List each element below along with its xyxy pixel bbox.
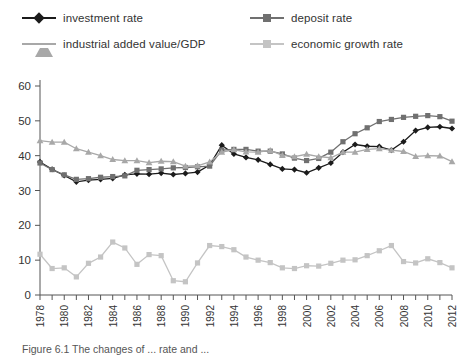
- data-point-marker: [86, 261, 91, 266]
- data-point-marker: [98, 175, 103, 180]
- data-point-marker: [110, 239, 115, 244]
- data-point-marker: [365, 125, 370, 130]
- data-point-marker: [401, 115, 406, 120]
- data-point-marker: [413, 114, 418, 119]
- data-point-marker: [219, 244, 224, 249]
- x-axis-tick-label: 1992: [205, 305, 216, 328]
- data-point-marker: [304, 158, 309, 163]
- data-point-marker: [425, 256, 430, 261]
- data-point-marker: [146, 252, 151, 257]
- data-point-marker: [194, 169, 200, 175]
- square-marker-icon: [263, 40, 271, 48]
- data-point-marker: [183, 279, 188, 284]
- data-point-marker: [425, 113, 430, 118]
- data-point-marker: [316, 263, 321, 268]
- data-point-marker: [280, 265, 285, 270]
- y-axis-tick-label: 20: [18, 219, 31, 231]
- data-point-marker: [340, 258, 345, 263]
- legend-label-deposit-rate: deposit rate: [291, 12, 352, 24]
- figure-caption: Figure 6.1 The changes of ... rate and .…: [22, 343, 209, 355]
- data-point-marker: [171, 278, 176, 283]
- chart-figure: investment rate deposit rate industrial …: [0, 0, 461, 357]
- data-point-marker: [303, 170, 309, 176]
- data-point-marker: [303, 151, 310, 157]
- x-axis-tick-label: 2006: [374, 305, 385, 328]
- x-axis-tick-label: 2010: [423, 305, 434, 328]
- legend-item-industrial-added-value: industrial added value/GDP: [22, 38, 206, 50]
- x-axis-tick-label: 1984: [108, 305, 119, 328]
- data-point-marker: [389, 117, 394, 122]
- data-point-marker: [50, 266, 55, 271]
- series-industrial-added-value-gdp: [37, 137, 456, 168]
- data-point-marker: [171, 165, 176, 170]
- square-marker-icon: [263, 14, 271, 22]
- y-axis-tick-label: 10: [18, 254, 31, 266]
- data-point-marker: [159, 253, 164, 258]
- x-axis-tick-label: 2002: [326, 305, 337, 328]
- data-point-marker: [291, 167, 297, 173]
- y-axis-tick-label: 0: [25, 289, 31, 301]
- series-deposit-rate: [37, 113, 454, 182]
- data-point-marker: [231, 247, 236, 252]
- data-point-marker: [279, 166, 285, 172]
- data-point-marker: [37, 160, 42, 165]
- legend-label-industrial-added-value: industrial added value/GDP: [63, 38, 206, 50]
- legend-item-economic-growth-rate: economic growth rate: [250, 38, 403, 50]
- data-point-marker: [449, 119, 454, 124]
- data-point-marker: [170, 171, 176, 177]
- data-point-marker: [437, 124, 443, 130]
- data-point-marker: [267, 161, 273, 167]
- triangle-marker-icon: [35, 40, 53, 57]
- data-point-marker: [243, 154, 249, 160]
- data-point-marker: [243, 254, 248, 259]
- data-point-marker: [146, 167, 151, 172]
- data-point-marker: [304, 263, 309, 268]
- legend-item-investment-rate: investment rate: [22, 12, 143, 24]
- legend-swatch-industrial-added-value: [22, 38, 56, 50]
- x-axis-tick-label: 2012: [447, 305, 458, 328]
- data-point-marker: [255, 157, 261, 163]
- data-point-marker: [352, 257, 357, 262]
- y-axis-tick-label: 30: [18, 185, 31, 197]
- data-point-marker: [256, 258, 261, 263]
- chart-legend: investment rate deposit rate industrial …: [0, 0, 461, 62]
- x-axis-tick-label: 1990: [180, 305, 191, 328]
- data-point-marker: [73, 145, 80, 151]
- data-point-marker: [352, 141, 358, 147]
- data-point-marker: [110, 174, 115, 179]
- data-point-marker: [365, 253, 370, 258]
- data-point-marker: [74, 274, 79, 279]
- x-axis-tick-label: 1982: [83, 305, 94, 328]
- data-point-marker: [195, 260, 200, 265]
- data-point-marker: [316, 165, 322, 171]
- y-axis-tick-label: 50: [18, 115, 31, 127]
- data-point-marker: [352, 131, 357, 136]
- y-axis-tick-label: 60: [18, 80, 31, 92]
- data-point-marker: [159, 166, 164, 171]
- data-point-marker: [340, 139, 345, 144]
- data-point-marker: [134, 168, 139, 173]
- data-point-marker: [62, 265, 67, 270]
- x-axis-tick-label: 1980: [59, 305, 70, 328]
- x-axis-tick-label: 2000: [302, 305, 313, 328]
- y-axis-tick-label: 40: [18, 150, 31, 162]
- data-point-marker: [122, 245, 127, 250]
- data-point-marker: [328, 261, 333, 266]
- data-point-marker: [437, 114, 442, 119]
- data-point-marker: [37, 137, 44, 143]
- data-point-marker: [328, 150, 333, 155]
- data-point-marker: [292, 266, 297, 271]
- data-point-marker: [122, 173, 127, 178]
- data-point-marker: [134, 262, 139, 267]
- x-axis-tick-label: 1998: [277, 305, 288, 328]
- chart-plot-area: 0102030405060197819801982198419861988199…: [0, 62, 461, 357]
- legend-swatch-investment-rate: [22, 12, 56, 24]
- data-point-marker: [207, 243, 212, 248]
- legend-swatch-economic-growth-rate: [250, 38, 284, 50]
- data-point-marker: [268, 260, 273, 265]
- line-chart-canvas: 0102030405060197819801982198419861988199…: [0, 62, 461, 357]
- data-point-marker: [437, 260, 442, 265]
- data-point-marker: [98, 254, 103, 259]
- data-point-marker: [377, 248, 382, 253]
- x-axis-tick-label: 2004: [350, 305, 361, 328]
